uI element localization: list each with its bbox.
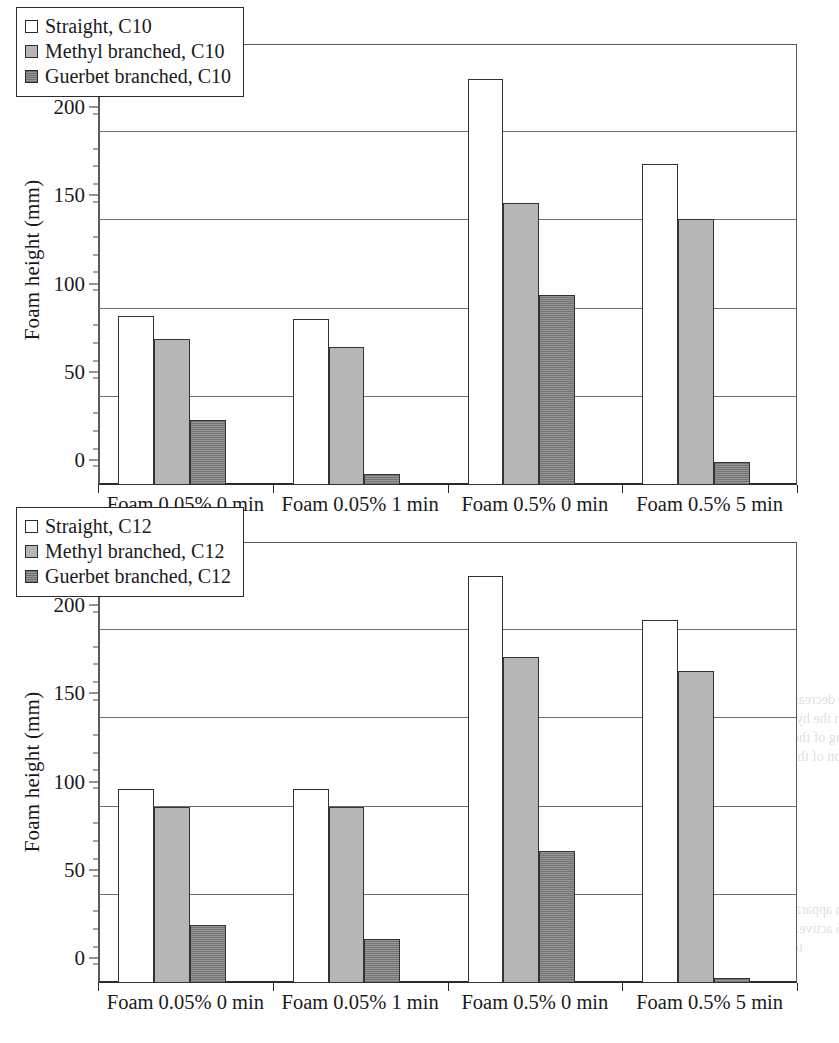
legend-item[interactable]: Guerbet branched, C12 [25, 564, 231, 589]
chart-c10: Foam height (mm) 050100150200250 Straigh… [0, 0, 839, 520]
legend-c12: Straight, C12 Methyl branched, C12 Guerb… [16, 507, 244, 597]
legend-swatch-guerbet-branched-icon [25, 570, 38, 583]
y-axis-tick-label: 200 [54, 95, 90, 120]
bar[interactable] [364, 939, 400, 983]
x-axis-tick [448, 485, 449, 493]
legend-item[interactable]: Straight, C12 [25, 514, 231, 539]
y-axis-tick-label: 50 [64, 359, 89, 384]
y-axis-tick-mark [89, 107, 98, 108]
y-axis-tick-label: 100 [54, 271, 90, 296]
y-axis-tick: 200 [54, 95, 99, 120]
legend-swatch-guerbet-branched-icon [25, 70, 38, 83]
y-axis-tick: 150 [54, 183, 99, 208]
bar[interactable] [503, 657, 539, 983]
bar[interactable] [364, 474, 400, 485]
y-axis-tick-mark [89, 781, 98, 782]
x-axis-label: Foam 0.5% 5 min [622, 991, 797, 1014]
bar[interactable] [190, 420, 226, 485]
bar[interactable] [539, 295, 575, 486]
bar[interactable] [714, 978, 750, 983]
bar[interactable] [118, 789, 154, 983]
y-axis-tick: 150 [54, 681, 99, 706]
x-axis-tick [622, 485, 623, 493]
legend-label: Methyl branched, C10 [45, 39, 224, 64]
y-axis-tick-label: 0 [75, 448, 90, 473]
y-axis-tick: 50 [64, 857, 98, 882]
bar[interactable] [678, 671, 714, 983]
y-axis-tick-mark [89, 371, 98, 372]
y-axis-label: Foam height (mm) [20, 130, 45, 390]
bars-layer [98, 44, 797, 485]
y-axis-tick-label: 0 [75, 946, 90, 971]
bar[interactable] [468, 79, 504, 485]
y-axis-tick-mark [89, 958, 98, 959]
plot-area-c10: 050100150200250 [98, 44, 797, 485]
y-axis-tick: 0 [75, 946, 99, 971]
bar[interactable] [118, 316, 154, 485]
chart-c12: Foam height (mm) 050100150200250 Straigh… [0, 500, 839, 1043]
legend-swatch-methyl-branched-icon [25, 545, 38, 558]
legend-swatch-straight-icon [25, 520, 38, 533]
figure-page: l ateral spacing between the molecules. … [0, 0, 839, 1043]
y-axis-tick-label: 150 [54, 681, 90, 706]
bar[interactable] [154, 807, 190, 983]
plot-area-c12: 050100150200250 [98, 542, 797, 983]
y-axis-tick-mark [89, 195, 98, 196]
bar[interactable] [539, 851, 575, 983]
y-axis-tick: 50 [64, 359, 98, 384]
y-axis-tick-mark [89, 460, 98, 461]
legend-item[interactable]: Guerbet branched, C10 [25, 64, 231, 89]
y-axis-tick: 100 [54, 769, 99, 794]
x-axis-tick [622, 983, 623, 991]
bar[interactable] [154, 339, 190, 485]
x-axis-tick [98, 485, 99, 493]
y-axis-tick-label: 50 [64, 857, 89, 882]
bar[interactable] [329, 347, 365, 485]
legend-c10: Straight, C10 Methyl branched, C10 Guerb… [16, 7, 244, 97]
bar[interactable] [678, 219, 714, 485]
x-axis-label: Foam 0.05% 1 min [273, 991, 448, 1014]
y-axis-tick-label: 100 [54, 769, 90, 794]
y-axis-tick: 100 [54, 271, 99, 296]
y-axis-tick-mark [89, 605, 98, 606]
legend-label: Guerbet branched, C10 [45, 64, 231, 89]
legend-label: Straight, C10 [45, 14, 152, 39]
legend-label: Guerbet branched, C12 [45, 564, 231, 589]
x-axis-tick [797, 485, 798, 493]
bars-layer [98, 542, 797, 983]
bar[interactable] [642, 164, 678, 485]
y-axis-tick-label: 150 [54, 183, 90, 208]
y-axis-tick: 0 [75, 448, 99, 473]
y-axis-tick-mark [89, 869, 98, 870]
x-axis-labels: Foam 0.05% 0 minFoam 0.05% 1 minFoam 0.5… [98, 991, 797, 1014]
y-axis-tick-mark [89, 283, 98, 284]
bar[interactable] [293, 789, 329, 983]
bar[interactable] [714, 462, 750, 485]
x-axis-tick [797, 983, 798, 991]
legend-item[interactable]: Methyl branched, C12 [25, 539, 231, 564]
bar[interactable] [190, 925, 226, 983]
legend-swatch-straight-icon [25, 20, 38, 33]
bar[interactable] [468, 576, 504, 983]
legend-item[interactable]: Straight, C10 [25, 14, 231, 39]
legend-swatch-methyl-branched-icon [25, 45, 38, 58]
legend-label: Methyl branched, C12 [45, 539, 224, 564]
legend-label: Straight, C12 [45, 514, 152, 539]
y-axis-label: Foam height (mm) [20, 642, 45, 902]
y-axis-tick-mark [89, 693, 98, 694]
x-axis-tick [448, 983, 449, 991]
legend-item[interactable]: Methyl branched, C10 [25, 39, 231, 64]
x-axis-label: Foam 0.05% 0 min [98, 991, 273, 1014]
x-axis-tick [98, 983, 99, 991]
bar[interactable] [503, 203, 539, 485]
bar[interactable] [329, 807, 365, 983]
x-axis-label: Foam 0.5% 0 min [448, 991, 623, 1014]
x-axis-tick [273, 485, 274, 493]
x-axis-tick [273, 983, 274, 991]
bar[interactable] [642, 620, 678, 983]
bar[interactable] [293, 319, 329, 485]
